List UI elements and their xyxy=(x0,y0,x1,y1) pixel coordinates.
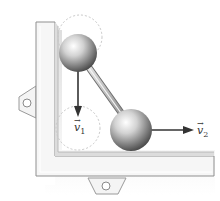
bottom-tab-hole xyxy=(102,182,110,190)
velocity-arrow-v1 xyxy=(74,70,82,117)
velocity-arrow-v2 xyxy=(150,126,194,134)
left-mounting-tab xyxy=(19,86,36,118)
vector-arrow-glyph: → xyxy=(74,117,81,125)
vector-arrow-glyph: → xyxy=(197,120,204,128)
ball-2 xyxy=(110,109,152,151)
label-v2-subscript: 2 xyxy=(203,130,208,139)
left-tab-hole xyxy=(23,99,31,107)
label-v2: →v2 xyxy=(197,125,208,139)
ball-1 xyxy=(59,34,97,72)
dumbbell-diagram xyxy=(0,0,220,201)
label-v1: →v1 xyxy=(74,122,85,136)
label-v1-subscript: 1 xyxy=(80,127,85,136)
